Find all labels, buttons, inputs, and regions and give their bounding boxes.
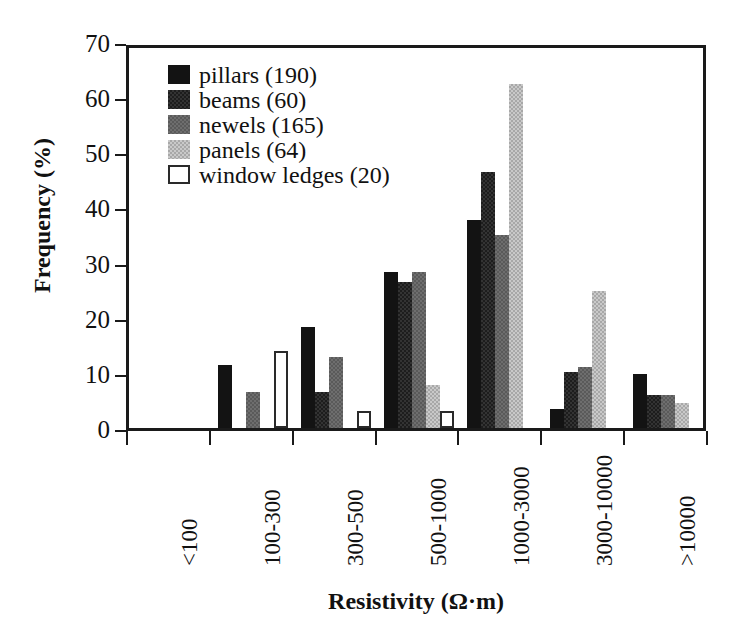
bar-beams [398, 282, 412, 428]
bar-pillars [301, 327, 315, 428]
x-tick-mark [457, 431, 459, 445]
legend-label: panels (64) [199, 138, 306, 162]
bar-panels [426, 385, 440, 428]
x-tick-mark [292, 431, 294, 445]
legend-label: window ledges (20) [199, 163, 390, 187]
bar-beams [647, 395, 661, 428]
y-tick-label: 40 [46, 195, 110, 223]
y-tick-label: 10 [46, 361, 110, 389]
y-tick-mark [115, 320, 126, 322]
legend-label: pillars (190) [199, 63, 317, 87]
y-tick-mark [115, 265, 126, 267]
legend-swatch-pillars [168, 65, 190, 84]
bar-pillars [384, 272, 398, 428]
legend-label: beams (60) [199, 88, 306, 112]
bar-ledges [357, 411, 371, 428]
bar-beams [315, 392, 329, 428]
legend-swatch-ledges [168, 165, 190, 184]
x-category-label: <100 [177, 519, 203, 566]
y-tick-mark [115, 209, 126, 211]
y-tick-label: 60 [46, 85, 110, 113]
y-tick-mark [115, 44, 126, 46]
bar-beams [481, 172, 495, 428]
bar-pillars [467, 220, 481, 428]
bar-panels [592, 291, 606, 428]
chart-legend: pillars (190)beams (60)newels (165)panel… [168, 62, 468, 187]
y-tick-mark [115, 154, 126, 156]
bar-newels [578, 367, 592, 428]
x-tick-mark [540, 431, 542, 445]
y-tick-label: 50 [46, 140, 110, 168]
legend-swatch-panels [168, 140, 190, 159]
bar-ledges [440, 411, 454, 428]
bar-ledges [274, 351, 288, 428]
x-tick-mark [209, 431, 211, 445]
x-tick-mark [126, 431, 128, 445]
legend-item: newels (165) [168, 112, 468, 137]
legend-item: beams (60) [168, 87, 468, 112]
x-category-label: 100-300 [260, 489, 286, 566]
legend-item: panels (64) [168, 137, 468, 162]
x-tick-mark [706, 431, 708, 445]
y-tick-mark [115, 99, 126, 101]
bar-pillars [218, 365, 232, 428]
x-tick-mark [375, 431, 377, 445]
bar-newels [329, 357, 343, 428]
legend-swatch-newels [168, 115, 190, 134]
bar-newels [412, 272, 426, 428]
x-category-label: >10000 [675, 496, 701, 566]
x-category-label: 1000-3000 [509, 466, 535, 566]
bar-beams [564, 372, 578, 428]
x-category-label: 500-1000 [426, 478, 452, 566]
bar-pillars [633, 374, 647, 428]
chart-page: Frequency (%) Resistivity (Ω·m) 01020304… [0, 0, 741, 644]
y-tick-label: 30 [46, 251, 110, 279]
x-category-label: 3000-10000 [592, 455, 618, 566]
x-axis-title: Resistivity (Ω·m) [126, 588, 706, 615]
legend-label: newels (165) [199, 113, 324, 137]
y-tick-label: 0 [46, 416, 110, 444]
x-category-label: 300-500 [343, 489, 369, 566]
legend-item: pillars (190) [168, 62, 468, 87]
y-tick-label: 20 [46, 306, 110, 334]
y-tick-mark [115, 375, 126, 377]
y-tick-label: 70 [46, 30, 110, 58]
bar-newels [495, 235, 509, 428]
x-tick-mark [623, 431, 625, 445]
y-tick-mark [115, 430, 126, 432]
bar-panels [509, 84, 523, 428]
bar-pillars [550, 409, 564, 428]
legend-item: window ledges (20) [168, 162, 468, 187]
legend-swatch-beams [168, 90, 190, 109]
bar-newels [246, 392, 260, 428]
bar-panels [675, 403, 689, 428]
bar-newels [661, 395, 675, 428]
